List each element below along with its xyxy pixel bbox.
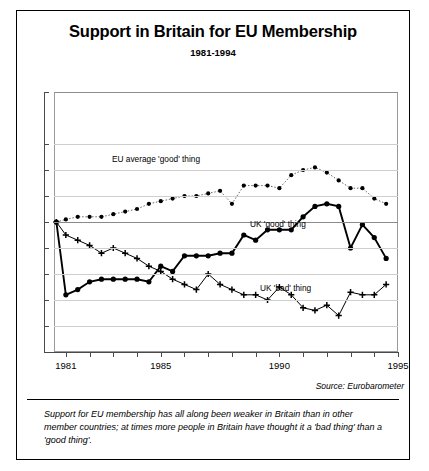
page-title: Support in Britain for EU Membership — [16, 22, 410, 41]
data-point-marker — [194, 253, 199, 258]
x-axis-label: 1995 — [387, 360, 408, 371]
x-axis-label: 1990 — [269, 360, 290, 371]
x-axis-tick — [113, 352, 114, 357]
data-point-marker — [360, 186, 364, 190]
series-line — [56, 204, 386, 295]
x-axis-tick — [66, 352, 67, 357]
y-gridline — [54, 274, 398, 275]
y-gridline — [54, 248, 398, 249]
data-point-marker — [181, 281, 187, 287]
data-point-marker — [123, 277, 128, 282]
data-point-marker — [75, 237, 81, 243]
data-point-marker — [229, 287, 235, 293]
x-axis-tick — [303, 352, 304, 357]
x-axis-tick — [279, 352, 280, 357]
y-axis-tick — [44, 248, 49, 249]
x-axis-line — [44, 352, 398, 353]
data-point-marker — [206, 253, 211, 258]
data-point-marker — [99, 215, 103, 219]
x-axis-tick — [256, 352, 257, 357]
x-axis-tick — [137, 352, 138, 357]
y-axis-tick — [44, 222, 49, 223]
data-point-marker — [217, 251, 222, 256]
x-axis-label: 1985 — [150, 360, 171, 371]
data-point-marker — [170, 276, 176, 282]
data-point-marker — [230, 202, 234, 206]
data-point-marker — [134, 255, 140, 261]
y-axis-tick — [44, 326, 49, 327]
y-axis-tick — [44, 352, 49, 353]
data-point-marker — [134, 277, 139, 282]
chart-page: Support in Britain for EU Membership 198… — [0, 0, 429, 471]
data-point-marker — [348, 186, 352, 190]
data-point-marker — [87, 279, 92, 284]
series-uk-bad-thing — [53, 219, 389, 319]
series-uk-good-thing — [54, 201, 389, 297]
x-axis-tick — [161, 352, 162, 357]
data-point-marker — [123, 210, 127, 214]
chart-caption: Support for EU membership has all along … — [44, 408, 384, 447]
data-point-marker — [135, 207, 139, 211]
source-note: Source: Eurobarometer — [16, 381, 404, 391]
data-point-marker — [241, 232, 246, 237]
data-point-marker — [253, 292, 259, 298]
annotation-eu-average: EU average 'good' thing — [112, 154, 200, 164]
y-axis-tick — [44, 170, 49, 171]
data-point-marker — [372, 235, 377, 240]
data-point-marker — [372, 197, 376, 201]
data-point-marker — [312, 307, 318, 313]
x-axis-tick — [327, 352, 328, 357]
y-axis-tick — [44, 274, 49, 275]
data-point-marker — [277, 186, 281, 190]
page-subtitle: 1981-1994 — [16, 47, 410, 58]
data-point-marker — [206, 191, 210, 195]
x-axis-tick — [398, 352, 399, 357]
x-axis-tick — [351, 352, 352, 357]
data-point-marker — [111, 212, 115, 216]
data-point-marker — [147, 202, 151, 206]
y-axis-tick — [44, 300, 49, 301]
data-point-marker — [347, 289, 353, 295]
data-point-marker — [324, 201, 329, 206]
data-point-marker — [384, 202, 388, 206]
data-point-marker — [336, 204, 341, 209]
data-point-marker — [182, 253, 187, 258]
series-line — [56, 167, 386, 222]
annotation-uk-bad: UK 'bad' thing — [260, 283, 311, 293]
data-point-marker — [111, 277, 116, 282]
data-point-marker — [158, 264, 163, 269]
y-gridline — [54, 196, 398, 197]
data-point-marker — [64, 217, 68, 221]
y-gridline — [54, 144, 398, 145]
data-point-marker — [337, 178, 341, 182]
data-point-marker — [312, 204, 317, 209]
data-point-marker — [218, 189, 222, 193]
series-eu-average-good-thing — [54, 165, 388, 224]
data-point-marker — [159, 199, 163, 203]
y-gridline — [54, 326, 398, 327]
x-axis-tick — [90, 352, 91, 357]
data-point-marker — [242, 184, 246, 188]
y-gridline — [54, 300, 398, 301]
x-axis-tick — [184, 352, 185, 357]
data-point-marker — [146, 263, 152, 269]
data-point-marker — [241, 292, 247, 298]
data-point-marker — [146, 279, 151, 284]
x-axis-tick — [208, 352, 209, 357]
data-point-marker — [359, 292, 365, 298]
y-axis-tick — [44, 196, 49, 197]
series-line — [56, 222, 386, 316]
data-point-marker — [171, 197, 175, 201]
data-point-marker — [254, 184, 258, 188]
data-point-marker — [122, 250, 128, 256]
data-point-marker — [384, 256, 389, 261]
y-gridline — [54, 170, 398, 171]
data-point-marker — [229, 251, 234, 256]
y-axis-tick — [44, 92, 49, 93]
data-point-marker — [98, 250, 104, 256]
y-gridline — [54, 222, 398, 223]
x-axis-tick — [232, 352, 233, 357]
data-point-marker — [325, 171, 329, 175]
data-point-marker — [87, 215, 91, 219]
x-axis-label: 1981 — [55, 360, 76, 371]
